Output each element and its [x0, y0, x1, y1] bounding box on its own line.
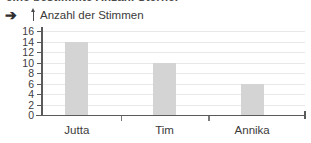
y-axis-line	[41, 27, 43, 116]
y-axis-tick	[37, 105, 42, 106]
plot-area	[42, 31, 305, 115]
y-axis-tick	[37, 31, 42, 32]
bar	[153, 63, 176, 116]
x-axis-tick	[208, 116, 209, 121]
chart-page: eine bestimmte Anzahl Sterne. ➔ Anzahl d…	[0, 0, 311, 143]
y-axis-tick-label: 0	[10, 110, 34, 121]
y-axis-tick	[37, 73, 42, 74]
bar-chart: 0246810121416 JuttaTimAnnika	[0, 0, 311, 143]
y-axis-tick	[37, 115, 42, 116]
y-axis-tick	[37, 42, 42, 43]
x-axis-endcap	[304, 111, 306, 119]
x-axis-tick	[121, 116, 122, 121]
y-axis-tick	[37, 63, 42, 64]
y-axis-tick-label: 12	[10, 47, 34, 58]
y-axis-tick-label: 8	[10, 68, 34, 79]
y-axis-tick	[37, 52, 42, 53]
y-axis-tick-label: 6	[10, 79, 34, 90]
x-axis-line	[36, 115, 306, 117]
y-axis-tick	[37, 94, 42, 95]
x-axis-tick-label: Tim	[125, 124, 205, 136]
x-axis-tick-label: Jutta	[37, 124, 117, 136]
y-axis-tick-label: 2	[10, 100, 34, 111]
y-axis-tick-label: 16	[10, 26, 34, 37]
y-axis-tick-label: 4	[10, 89, 34, 100]
x-axis-tick-label: Annika	[212, 124, 292, 136]
y-axis-tick-label: 14	[10, 37, 34, 48]
gridline	[42, 31, 305, 32]
bar	[241, 84, 264, 116]
y-axis-tick	[37, 84, 42, 85]
bar	[65, 42, 88, 116]
y-axis-tick-label: 10	[10, 58, 34, 69]
